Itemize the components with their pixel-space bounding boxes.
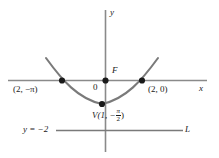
- focus-dot: [102, 77, 108, 83]
- vertex-label-suffix: ): [121, 111, 124, 120]
- directrix-line-name: L: [185, 125, 190, 134]
- x-axis-label: x: [199, 84, 203, 93]
- y-axis-label: y: [110, 8, 114, 17]
- origin-label: 0: [93, 83, 98, 92]
- focus-label: F: [112, 66, 118, 75]
- left-intercept-label: (2, −π): [13, 85, 38, 94]
- vertex-label-prefix: V(1, −: [92, 111, 116, 120]
- vertex-label: V(1, − π 2 ): [92, 108, 124, 124]
- figure-canvas: [0, 0, 219, 158]
- right-intercept-dot: [139, 77, 145, 83]
- directrix-equation-label: y = −2: [23, 125, 48, 134]
- vertex-dot: [99, 101, 105, 107]
- parabola-figure: y x 0 F (2, −π) (2, 0) V(1, − π 2 ) y = …: [0, 0, 219, 158]
- left-intercept-dot: [59, 77, 65, 83]
- right-intercept-label: (2, 0): [148, 85, 168, 94]
